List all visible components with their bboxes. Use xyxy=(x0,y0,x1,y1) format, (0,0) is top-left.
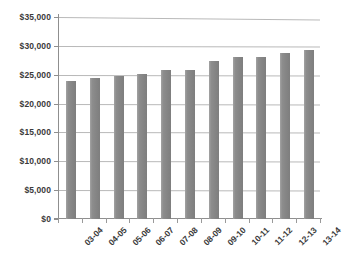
x-axis-tick-label: 05-06 xyxy=(130,225,152,247)
y-axis-tick-label: $30,000 xyxy=(20,41,51,51)
y-axis-tick-label: $10,000 xyxy=(20,156,51,166)
bar xyxy=(280,53,290,219)
bar xyxy=(90,78,100,219)
x-axis-tick-label: 08-09 xyxy=(201,225,223,247)
x-axis-tick-label: 03-04 xyxy=(82,225,104,247)
y-axis-tick-label: $5,000 xyxy=(24,185,51,195)
x-axis-tick xyxy=(320,218,321,223)
x-axis-tick-label: 13-14 xyxy=(320,225,342,247)
plot-area xyxy=(58,17,320,219)
bar xyxy=(137,74,147,219)
x-axis-tick-label: 10-11 xyxy=(249,225,271,247)
bar xyxy=(185,70,195,219)
bar xyxy=(161,70,171,219)
bar xyxy=(114,76,124,219)
y-axis-tick-label: $0 xyxy=(41,214,51,224)
bar xyxy=(209,61,219,219)
x-axis-tick-label: 07-08 xyxy=(178,225,200,247)
y-axis-tick-label: $15,000 xyxy=(20,127,51,137)
x-axis-tick-label: 09-10 xyxy=(225,225,247,247)
y-axis-tick-label: $20,000 xyxy=(20,99,51,109)
x-axis-tick-label: 04-05 xyxy=(106,225,128,247)
x-axis-tick-label: 06-07 xyxy=(154,225,176,247)
x-axis-labels: 03-0404-0505-0606-0707-0808-0909-1010-11… xyxy=(58,219,320,271)
bar xyxy=(66,81,76,219)
bar-series xyxy=(58,17,320,219)
x-axis-tick-label: 12-13 xyxy=(297,225,319,247)
bar xyxy=(304,50,314,219)
y-axis-tick-label: $25,000 xyxy=(20,70,51,80)
y-axis-tick-label: $35,000 xyxy=(20,12,51,22)
y-axis-labels: $35,000 $30,000 $25,000 $20,000 $15,000 … xyxy=(0,0,54,271)
bar xyxy=(233,57,243,219)
x-axis-tick-label: 11-12 xyxy=(273,225,295,247)
bar xyxy=(256,57,266,219)
